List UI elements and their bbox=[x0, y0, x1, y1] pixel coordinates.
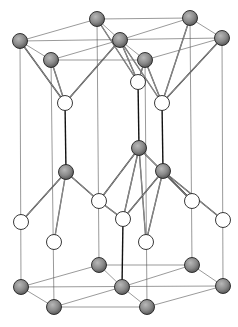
gray-atom bbox=[47, 300, 62, 315]
white-atom bbox=[58, 96, 73, 111]
cell-edge bbox=[97, 19, 99, 265]
gray-atom bbox=[138, 53, 153, 68]
white-atom bbox=[155, 96, 170, 111]
white-atom bbox=[139, 235, 154, 250]
cell-edge bbox=[122, 265, 192, 287]
cell-edge bbox=[54, 287, 122, 307]
white-atom bbox=[185, 194, 200, 209]
white-atoms bbox=[14, 75, 231, 250]
cell-edge bbox=[97, 18, 190, 19]
cell-edge bbox=[20, 19, 97, 41]
gray-atom bbox=[113, 33, 128, 48]
bond-highlight bbox=[162, 38, 222, 103]
white-atom bbox=[92, 194, 107, 209]
gray-atom bbox=[115, 280, 130, 295]
white-atom bbox=[131, 75, 146, 90]
gray-atom bbox=[132, 141, 147, 156]
cell-edge bbox=[21, 265, 99, 287]
gray-atom bbox=[216, 279, 231, 294]
gray-atom bbox=[156, 164, 171, 179]
cell-edge bbox=[190, 18, 192, 265]
vertical-bond bbox=[122, 219, 123, 287]
white-atom bbox=[116, 212, 131, 227]
gray-atom bbox=[140, 300, 155, 315]
bond-highlight bbox=[120, 40, 162, 103]
gray-atom bbox=[13, 34, 28, 49]
cell-edge bbox=[145, 60, 147, 307]
gray-atom bbox=[90, 12, 105, 27]
vertical-bond bbox=[138, 82, 139, 148]
cell-edge bbox=[120, 18, 190, 40]
cell-edge bbox=[51, 40, 120, 60]
gray-atom bbox=[185, 258, 200, 273]
cell-edge bbox=[222, 38, 223, 286]
cell-edge bbox=[145, 38, 222, 60]
gray-atom bbox=[44, 53, 59, 68]
vertical-bond bbox=[162, 103, 163, 171]
bond-highlight bbox=[97, 19, 138, 82]
bond-highlight bbox=[20, 41, 65, 103]
gray-atom bbox=[59, 165, 74, 180]
crystal-structure-diagram bbox=[0, 0, 238, 327]
vertical-bond bbox=[65, 103, 66, 172]
gray-atom bbox=[14, 280, 29, 295]
cell-edge bbox=[51, 60, 54, 307]
gray-atom bbox=[92, 258, 107, 273]
gray-atom bbox=[215, 31, 230, 46]
cell-edge bbox=[20, 41, 21, 287]
gray-atom bbox=[183, 11, 198, 26]
white-atom bbox=[216, 213, 231, 228]
white-atom bbox=[14, 215, 29, 230]
white-atom bbox=[47, 235, 62, 250]
bond-highlight bbox=[162, 18, 190, 103]
bond-highlight bbox=[65, 40, 120, 103]
cell-edge bbox=[147, 286, 223, 307]
